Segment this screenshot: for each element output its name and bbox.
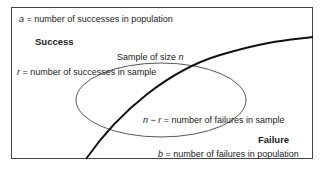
sample-failures-label: n − r = number of failures in sample bbox=[143, 115, 285, 125]
population-failures-label: b = number of failures in population bbox=[158, 149, 299, 159]
sample-successes-text: = number of successes in sample bbox=[20, 67, 156, 77]
sample-failures-text: = number of failures in sample bbox=[161, 115, 284, 125]
minus-sign: − bbox=[148, 115, 158, 125]
success-region-label: Success bbox=[35, 37, 74, 47]
population-successes-text: = number of successes in population bbox=[24, 14, 173, 24]
sample-successes-label: r = number of successes in sample bbox=[17, 67, 156, 77]
population-successes-label: a = number of successes in population bbox=[19, 14, 173, 24]
failure-region-label: Failure bbox=[258, 135, 289, 145]
population-failures-text: = number of failures in population bbox=[163, 149, 299, 159]
var-n: n bbox=[179, 52, 184, 62]
sample-title-label: Sample of size n bbox=[117, 52, 184, 62]
sample-title-prefix: Sample of size bbox=[117, 52, 179, 62]
